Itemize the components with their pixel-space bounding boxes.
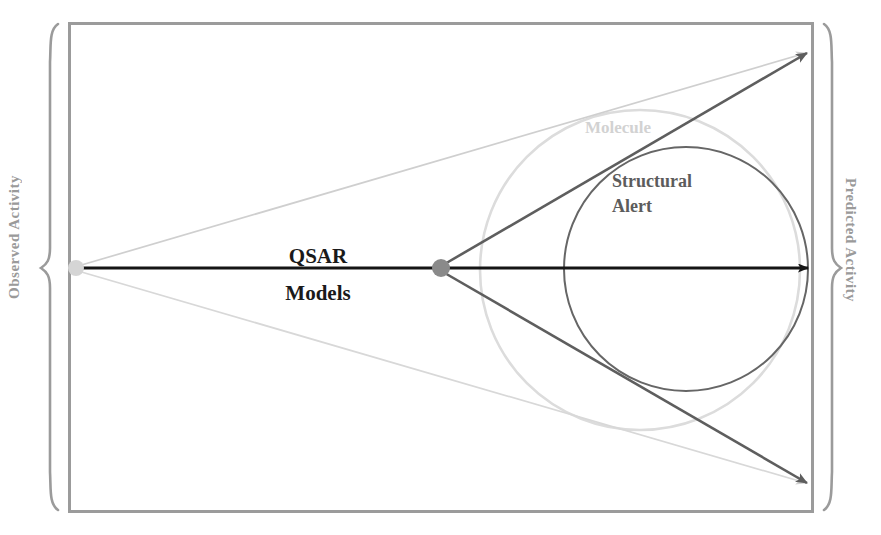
molecule-label: Molecule — [585, 118, 651, 138]
qsar-models-label-line2: Models — [258, 278, 378, 308]
model-hub-node — [432, 259, 450, 277]
structural-alert-label-line1: Structural — [612, 171, 692, 191]
predicted-activity-label: Predicted Activity — [842, 178, 859, 302]
qsar-models-label-line1: QSAR — [289, 244, 347, 268]
predicted-activity-brace — [824, 24, 841, 510]
observed-upper-fan-arrow — [78, 53, 806, 266]
observed-origin-node — [68, 260, 84, 276]
diagram-canvas: Observed Activity Predicted Activity QSA… — [0, 0, 881, 535]
observed-activity-label: Observed Activity — [6, 175, 23, 299]
hub-upper-arrow — [443, 53, 807, 265]
observed-activity-brace — [41, 24, 58, 510]
structural-alert-label: Structural Alert — [612, 169, 692, 219]
diagram-vector-layer — [0, 0, 881, 535]
qsar-models-label: QSAR Models — [258, 241, 378, 308]
hub-lower-arrow — [443, 272, 807, 483]
structural-alert-label-line2: Alert — [612, 194, 692, 219]
observed-lower-fan-arrow — [78, 271, 806, 483]
